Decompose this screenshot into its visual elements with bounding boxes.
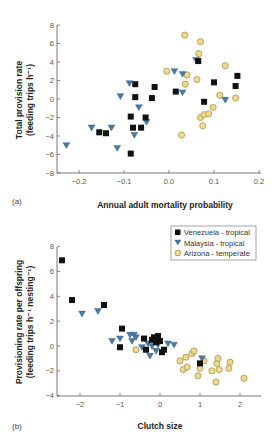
x-tick-label: 0.0 bbox=[164, 177, 174, 186]
data-point-venezuela bbox=[101, 302, 107, 308]
data-point-venezuela bbox=[152, 84, 158, 90]
data-point-venezuela bbox=[132, 94, 138, 100]
data-point-arizona bbox=[177, 358, 183, 364]
data-point-arizona bbox=[226, 365, 232, 371]
legend-item-arizona: Arizona - temperate bbox=[175, 249, 250, 258]
data-point-venezuela bbox=[141, 336, 147, 342]
data-point-arizona bbox=[164, 68, 170, 74]
y-tick-label: 6 bbox=[50, 39, 54, 48]
data-point-arizona bbox=[210, 104, 216, 110]
y-tick-label: −6 bbox=[45, 150, 54, 159]
data-points-b bbox=[59, 257, 247, 385]
axes-a: −8−6−4−202468−0.2−0.10.00.10.2 bbox=[45, 21, 264, 186]
data-point-arizona bbox=[215, 355, 221, 361]
chart-panel-b: −4−202468−2−1012 Clutch size Provisionin… bbox=[12, 242, 261, 431]
data-point-malaysia bbox=[165, 341, 172, 347]
data-point-venezuela bbox=[143, 115, 149, 121]
y-tick-label: −4 bbox=[45, 391, 54, 400]
y-axis-label-b-line2: (feeding trips h⁻¹ nesting⁻¹) bbox=[25, 266, 35, 379]
data-point-venezuela bbox=[201, 99, 207, 105]
data-point-arizona bbox=[216, 366, 222, 372]
data-point-malaysia bbox=[222, 97, 229, 103]
data-point-venezuela bbox=[138, 125, 144, 131]
y-tick-label: 2 bbox=[50, 76, 54, 85]
legend-label-arizona: Arizona - temperate bbox=[184, 249, 250, 258]
y-tick-label: −2 bbox=[45, 366, 54, 375]
x-axis-label-b: Clutch size bbox=[138, 421, 183, 431]
x-tick-label: 0 bbox=[158, 400, 162, 409]
x-tick-label: −0.2 bbox=[72, 177, 87, 186]
x-tick-label: 0.2 bbox=[254, 177, 264, 186]
data-point-arizona bbox=[183, 354, 189, 360]
data-point-arizona bbox=[233, 95, 239, 101]
data-point-venezuela bbox=[96, 129, 102, 135]
data-point-malaysia bbox=[126, 81, 133, 87]
data-points-a bbox=[63, 32, 240, 157]
x-tick-label: −0.1 bbox=[117, 177, 132, 186]
data-point-venezuela bbox=[234, 73, 240, 79]
x-tick-label: −1 bbox=[116, 400, 125, 409]
data-point-arizona bbox=[191, 348, 197, 354]
data-point-venezuela bbox=[103, 130, 109, 136]
y-tick-label: −8 bbox=[45, 169, 54, 178]
y-axis-label-a-line2: (feeding trips h⁻¹) bbox=[25, 64, 35, 136]
data-point-venezuela bbox=[233, 83, 239, 89]
data-point-malaysia bbox=[95, 309, 102, 315]
data-point-arizona bbox=[197, 39, 203, 45]
data-point-venezuela bbox=[149, 95, 155, 101]
x-tick-label: 0.1 bbox=[209, 177, 219, 186]
y-tick-label: 4 bbox=[50, 58, 54, 67]
data-point-malaysia bbox=[114, 145, 121, 151]
data-point-venezuela bbox=[197, 360, 203, 366]
chart-panel-a: −8−6−4−202468−0.2−0.10.00.10.2 Annual ad… bbox=[12, 21, 264, 210]
data-point-venezuela bbox=[59, 257, 65, 263]
data-point-arizona bbox=[182, 32, 188, 38]
y-tick-label: 8 bbox=[50, 21, 54, 30]
data-point-arizona bbox=[213, 379, 219, 385]
data-point-malaysia bbox=[117, 94, 124, 100]
x-tick-label: 1 bbox=[198, 400, 202, 409]
data-point-malaysia bbox=[171, 69, 178, 75]
data-point-malaysia bbox=[79, 311, 86, 317]
figure: −8−6−4−202468−0.2−0.10.00.10.2 Annual ad… bbox=[0, 0, 278, 443]
y-tick-label: 2 bbox=[50, 317, 54, 326]
data-point-venezuela bbox=[195, 58, 201, 64]
data-point-arizona bbox=[194, 76, 200, 82]
data-point-malaysia bbox=[129, 338, 136, 344]
data-point-arizona bbox=[227, 359, 233, 365]
data-point-venezuela bbox=[157, 338, 163, 344]
data-point-arizona bbox=[179, 132, 185, 138]
legend: Venezuela - tropical Malaysia - tropical… bbox=[171, 226, 256, 260]
data-point-venezuela bbox=[130, 125, 136, 131]
data-point-venezuela bbox=[119, 326, 125, 332]
data-point-arizona bbox=[206, 111, 212, 117]
square-marker-icon bbox=[175, 230, 181, 236]
data-point-malaysia bbox=[179, 90, 186, 96]
y-axis-label-a-line1: Total provision rate bbox=[14, 61, 24, 140]
x-axis-label-a: Annual adult mortality probability bbox=[97, 200, 233, 210]
y-tick-label: 0 bbox=[50, 342, 54, 351]
x-tick-label: −2 bbox=[76, 400, 85, 409]
data-point-malaysia bbox=[131, 132, 138, 138]
data-point-arizona bbox=[241, 375, 247, 381]
data-point-arizona bbox=[133, 347, 139, 353]
circle-marker-icon bbox=[175, 250, 181, 256]
data-point-venezuela bbox=[143, 347, 149, 353]
data-point-arizona bbox=[200, 123, 206, 129]
data-point-venezuela bbox=[69, 297, 75, 303]
data-point-malaysia bbox=[108, 125, 115, 131]
data-point-malaysia bbox=[135, 105, 142, 111]
data-point-venezuela bbox=[211, 79, 217, 85]
y-tick-label: −2 bbox=[45, 113, 54, 122]
legend-label-malaysia: Malaysia - tropical bbox=[184, 239, 245, 248]
x-tick-label: 2 bbox=[238, 400, 242, 409]
data-point-venezuela bbox=[173, 89, 179, 95]
data-point-venezuela bbox=[128, 114, 134, 120]
panel-label-b: (b) bbox=[12, 422, 22, 431]
data-point-malaysia bbox=[63, 143, 70, 149]
data-point-malaysia bbox=[171, 342, 178, 348]
y-tick-label: 4 bbox=[50, 292, 54, 301]
data-point-venezuela bbox=[132, 81, 138, 87]
data-point-venezuela bbox=[117, 344, 123, 350]
axes-b: −4−202468−2−1012 bbox=[45, 242, 261, 409]
